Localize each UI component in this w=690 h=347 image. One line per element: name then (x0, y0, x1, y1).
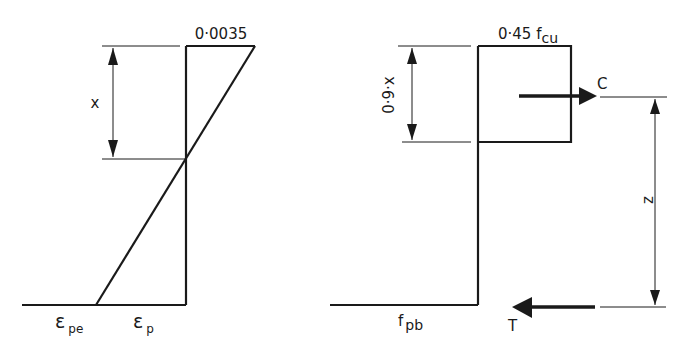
strain-pe-label: εpe (55, 310, 83, 336)
arrow-down-icon (407, 124, 417, 140)
stress-top-label: 0·45 fcu (498, 25, 558, 46)
stress-diagram: 0·9·x 0·45 fcu C z T fpb (330, 25, 667, 335)
strain-profile-line (96, 46, 255, 305)
arrow-up-icon (108, 48, 118, 65)
steel-stress-label: fpb (398, 312, 423, 333)
lever-arm-label: z (640, 196, 658, 204)
strain-top-label: 0·0035 (195, 25, 248, 43)
arrow-left-icon (512, 297, 532, 318)
stress-strain-diagram: x 0·0035 εpe εp 0·9·x 0·45 fcu C (0, 0, 690, 347)
arrow-down-icon (650, 290, 660, 305)
arrow-right-icon (579, 87, 597, 105)
stress-block (478, 46, 571, 142)
arrow-down-icon (108, 140, 118, 157)
strain-diagram: x 0·0035 εpe εp (22, 25, 255, 336)
depth-x-label: x (91, 94, 100, 112)
strain-p-label: εp (133, 310, 154, 336)
arrow-up-icon (650, 99, 660, 114)
tension-label: T (507, 317, 518, 335)
arrow-up-icon (407, 48, 417, 64)
compression-label: C (597, 75, 607, 93)
block-depth-label: 0·9·x (380, 76, 398, 114)
